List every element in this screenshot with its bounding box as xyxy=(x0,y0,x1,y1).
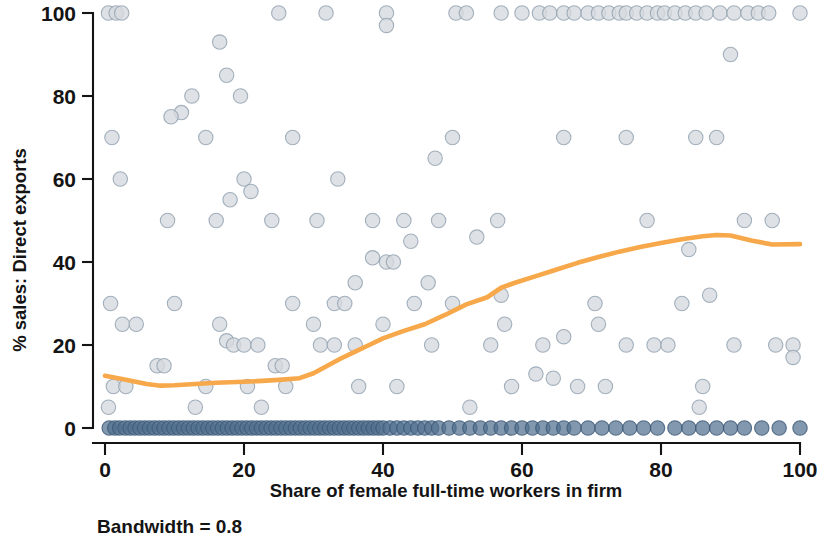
y-axis-ticks xyxy=(82,13,93,428)
scatter-point xyxy=(219,68,233,82)
scatter-point xyxy=(306,317,320,331)
scatter-point xyxy=(390,379,404,393)
scatter-point xyxy=(762,6,776,20)
scatter-point xyxy=(682,421,696,435)
scatter-point xyxy=(244,184,258,198)
scatter-point xyxy=(647,338,661,352)
scatter-point xyxy=(765,213,779,227)
lowess-smoother-line xyxy=(105,235,800,386)
y-axis-tick-label: 60 xyxy=(53,168,76,191)
scatter-point xyxy=(254,400,268,414)
scatter-point xyxy=(445,130,459,144)
scatter-point xyxy=(793,6,807,20)
scatter-point xyxy=(570,379,584,393)
scatter-point xyxy=(157,359,171,373)
scatter-point xyxy=(431,213,445,227)
chart-canvas: 020406080100 020406080100 % sales: Direc… xyxy=(0,0,823,543)
scatter-point xyxy=(772,421,786,435)
scatter-point xyxy=(536,338,550,352)
x-axis-title: Share of female full-time workers in fir… xyxy=(270,480,623,501)
y-axis-tick-labels: 020406080100 xyxy=(41,2,76,440)
scatter-point xyxy=(348,276,362,290)
y-axis-tick-label: 100 xyxy=(41,2,76,25)
scatter-point xyxy=(609,421,623,435)
y-axis-tick-label: 40 xyxy=(53,251,76,274)
scatter-point xyxy=(668,421,682,435)
y-axis-tick-label: 20 xyxy=(53,334,76,357)
scatter-point xyxy=(699,6,713,20)
scatter-point xyxy=(636,421,650,435)
scatter-point xyxy=(484,338,498,352)
scatter-point xyxy=(737,421,751,435)
scatter-point xyxy=(595,421,609,435)
scatter-point xyxy=(233,89,247,103)
scatter-point xyxy=(727,338,741,352)
scatter-point xyxy=(504,379,518,393)
scatter-point xyxy=(272,6,286,20)
x-axis-ticks xyxy=(105,443,800,455)
scatter-point xyxy=(365,251,379,265)
scatter-point xyxy=(640,213,654,227)
scatter-point xyxy=(251,338,265,352)
scatter-point xyxy=(689,130,703,144)
scatter-point xyxy=(114,6,128,20)
scatter-point xyxy=(470,230,484,244)
scatter-point xyxy=(275,359,289,373)
scatter-point xyxy=(237,338,251,352)
scatter-point xyxy=(223,193,237,207)
scatter-point xyxy=(713,6,727,20)
scatter-point xyxy=(515,6,529,20)
scatter-point xyxy=(557,130,571,144)
scatter-point xyxy=(675,296,689,310)
scatter-point xyxy=(567,421,581,435)
scatter-point xyxy=(581,421,595,435)
scatter-point xyxy=(768,338,782,352)
scatter-point xyxy=(588,296,602,310)
scatter-plot-figure: 020406080100 020406080100 % sales: Direc… xyxy=(0,0,823,543)
axes-layer xyxy=(82,13,800,455)
scatter-point xyxy=(365,213,379,227)
scatter-point xyxy=(459,6,473,20)
scatter-point xyxy=(692,400,706,414)
scatter-point xyxy=(319,6,333,20)
scatter-point xyxy=(490,213,504,227)
scatter-point xyxy=(327,338,341,352)
y-axis-title: % sales: Direct exports xyxy=(9,148,30,352)
scatter-point xyxy=(424,338,438,352)
scatter-point xyxy=(265,213,279,227)
scatter-point xyxy=(188,400,202,414)
scatter-point xyxy=(709,421,723,435)
scatter-point xyxy=(696,379,710,393)
scatter-point xyxy=(313,338,327,352)
scatter-point xyxy=(101,400,115,414)
x-axis-tick-label: 80 xyxy=(649,458,672,481)
scatter-point xyxy=(755,421,769,435)
scatter-point xyxy=(696,421,710,435)
scatter-point xyxy=(682,242,696,256)
scatter-point xyxy=(376,317,390,331)
x-axis-tick-labels: 020406080100 xyxy=(99,458,817,481)
scatter-point xyxy=(709,130,723,144)
scatter-point xyxy=(619,338,633,352)
x-axis-tick-label: 20 xyxy=(232,458,255,481)
bandwidth-note: Bandwidth = 0.8 xyxy=(97,516,242,537)
scatter-point xyxy=(737,213,751,227)
scatter-point xyxy=(591,317,605,331)
scatter-point xyxy=(160,213,174,227)
scatter-point xyxy=(407,296,421,310)
scatter-markers-layer xyxy=(101,6,807,435)
scatter-point xyxy=(623,421,637,435)
scatter-point xyxy=(404,234,418,248)
scatter-point xyxy=(661,338,675,352)
scatter-point xyxy=(567,6,581,20)
x-axis-tick-label: 40 xyxy=(371,458,394,481)
scatter-point xyxy=(105,130,119,144)
scatter-point xyxy=(793,421,807,435)
scatter-point xyxy=(529,367,543,381)
scatter-point xyxy=(331,172,345,186)
scatter-point xyxy=(351,379,365,393)
scatter-point xyxy=(786,350,800,364)
scatter-point xyxy=(723,47,737,61)
scatter-point xyxy=(212,35,226,49)
x-axis-tick-label: 60 xyxy=(510,458,533,481)
